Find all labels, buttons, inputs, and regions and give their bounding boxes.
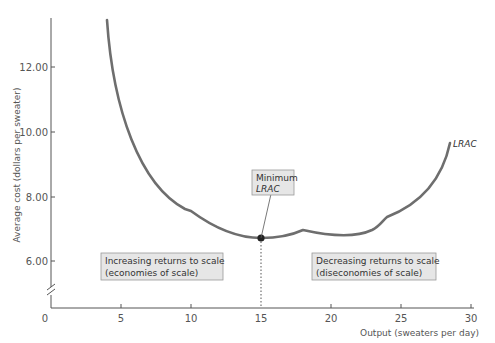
y-tick-label: 6.00 bbox=[26, 256, 48, 267]
y-tick-label: 10.00 bbox=[19, 127, 48, 138]
svg-text:LRAC: LRAC bbox=[256, 184, 280, 194]
svg-text:Decreasing returns to scale: Decreasing returns to scale bbox=[316, 256, 440, 266]
lrac-curve bbox=[107, 20, 450, 238]
svg-text:Minimum: Minimum bbox=[256, 173, 298, 183]
y-axis-title: Average cost (dollars per sweater) bbox=[12, 87, 22, 242]
svg-text:(diseconomies of scale): (diseconomies of scale) bbox=[316, 268, 422, 278]
svg-text:(economies of scale): (economies of scale) bbox=[105, 268, 198, 278]
x-tick-label: 25 bbox=[395, 313, 408, 324]
lrac-curve-label: LRAC bbox=[453, 139, 477, 149]
x-tick-label: 0 bbox=[42, 313, 48, 324]
y-tick-label: 12.00 bbox=[19, 62, 48, 73]
minimum-pointer-line bbox=[261, 194, 271, 238]
minimum-lrac-box: Minimum LRAC bbox=[252, 170, 298, 195]
x-tick-label: 20 bbox=[325, 313, 338, 324]
lrac-chart: 12.00 10.00 8.00 6.00 0 5 10 15 20 25 30… bbox=[0, 0, 495, 343]
x-tick-label: 5 bbox=[118, 313, 124, 324]
x-tick-label: 10 bbox=[185, 313, 198, 324]
decreasing-returns-box: Decreasing returns to scale (diseconomie… bbox=[312, 253, 440, 280]
y-ticks: 12.00 10.00 8.00 6.00 bbox=[19, 62, 55, 267]
y-tick-label: 8.00 bbox=[26, 192, 48, 203]
svg-text:Increasing returns to scale: Increasing returns to scale bbox=[105, 256, 225, 266]
x-ticks: 0 5 10 15 20 25 30 bbox=[42, 304, 478, 324]
x-tick-label: 30 bbox=[465, 313, 478, 324]
increasing-returns-box: Increasing returns to scale (economies o… bbox=[101, 253, 225, 280]
x-tick-label: 15 bbox=[255, 313, 268, 324]
x-axis-title: Output (sweaters per day) bbox=[360, 328, 479, 338]
